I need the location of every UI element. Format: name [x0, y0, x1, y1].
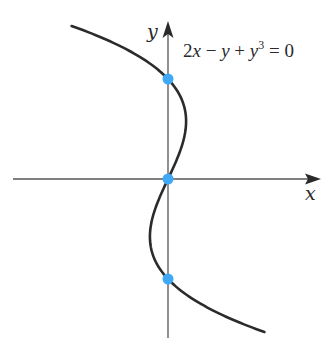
data-point: [163, 274, 174, 285]
y-axis-label: y: [146, 20, 158, 42]
data-point: [163, 174, 174, 185]
data-point: [163, 74, 174, 85]
equation-label: 2x − y + y3 = 0: [183, 38, 294, 61]
x-axis-label: x: [305, 182, 316, 204]
chart-canvas: y x 2x − y + y3 = 0: [0, 0, 331, 347]
